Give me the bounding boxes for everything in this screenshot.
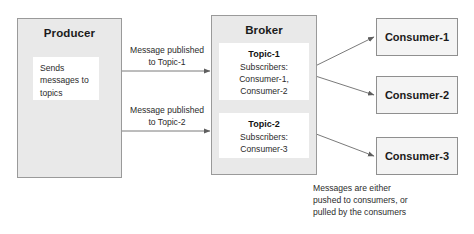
topic-2-name: Topic-2 (219, 118, 309, 130)
topic-1-subscriber-1: Consumer-1, (219, 73, 309, 85)
delivery-caption-line-3: pulled by the consumers (313, 207, 463, 219)
edge-label-publish-topic2-line-1: Message published (124, 105, 210, 117)
consumer-2-label: Consumer-2 (385, 89, 449, 101)
consumer-3-label: Consumer-3 (385, 150, 449, 162)
consumer-1-label: Consumer-1 (385, 31, 449, 43)
consumer-3-box: Consumer-3 (376, 137, 458, 175)
topic-1-name: Topic-1 (219, 48, 309, 60)
edge-label-publish-topic1-line-1: Message published (124, 45, 210, 57)
topic-2-subscribers-label: Subscribers: (219, 131, 309, 143)
consumer-1-box: Consumer-1 (376, 18, 458, 56)
consumer-2-box: Consumer-2 (376, 76, 458, 114)
topic-2-subscriber-1: Consumer-3 (219, 143, 309, 155)
diagram-canvas: Producer Sends messages to topics Broker… (0, 0, 474, 234)
edge-label-publish-topic1: Message published to Topic-1 (124, 45, 210, 68)
delivery-caption-line-2: pushed to consumers, or (313, 195, 463, 207)
edge-label-publish-topic2: Message published to Topic-2 (124, 105, 210, 128)
producer-note-line-3: topics (40, 88, 62, 98)
broker-title: Broker (212, 24, 316, 36)
topic-1-subscribers-label: Subscribers: (219, 61, 309, 73)
producer-note-card: Sends messages to topics (33, 57, 99, 100)
topic-1-card: Topic-1 Subscribers: Consumer-1, Consume… (219, 43, 309, 100)
delivery-caption-line-1: Messages are either (313, 183, 463, 195)
edge-label-publish-topic2-line-2: to Topic-2 (124, 117, 210, 129)
topic-1-subscriber-2: Consumer-2 (219, 85, 309, 97)
producer-note-line-1: Sends (40, 63, 64, 73)
topic-2-card: Topic-2 Subscribers: Consumer-3 (219, 113, 309, 158)
delivery-caption: Messages are either pushed to consumers,… (313, 183, 463, 218)
producer-title: Producer (18, 27, 121, 39)
producer-note-line-2: messages to (40, 75, 89, 85)
edge-label-publish-topic1-line-2: to Topic-1 (124, 57, 210, 69)
